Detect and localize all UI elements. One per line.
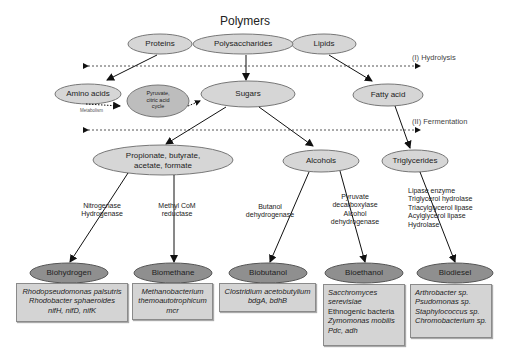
biohydrogen-enzymes: NitrogenaseHydrogenase: [72, 202, 132, 219]
bioethanol-organisms: SacchromycesserevisiaeEthnogenic bacteri…: [323, 284, 405, 346]
acids-label: Propionate, butyrate, acetate, formate: [93, 151, 233, 170]
hydrolysis-label: (I) Hydrolysis: [412, 53, 456, 62]
metabolism-label: Metabolism: [80, 108, 103, 113]
organism-line: nifH, nifD, nifK: [21, 306, 123, 315]
lipids-label: Lipids: [292, 39, 356, 49]
organism-line: mcr: [137, 306, 208, 315]
amino-acids-label: Amino acids: [55, 89, 121, 99]
biomethane-organisms: Methanobacteriumthemoautotrophicummcr: [132, 283, 213, 320]
organism-line: Methanobacterium: [137, 287, 208, 296]
biomethane-enzymes: Methyl CoMreductase: [150, 202, 204, 219]
organism-line: Clostridium acetobutylium: [224, 287, 311, 296]
organism-line: Rhodopseudomonas palsutris: [21, 287, 123, 296]
diagram-title: Polymers: [205, 14, 285, 28]
fatty-acid-label: Fatty acid: [353, 90, 423, 100]
organism-line: themoautotrophicum: [137, 296, 208, 305]
biohydrogen-organisms: Rhodopseudomonas palsutrisRhodobacter sp…: [16, 283, 128, 322]
biodiesel-organisms: Arthrobacter sp.Psudomonas sp.Staphyloco…: [410, 284, 492, 338]
sugars-label: Sugars: [201, 89, 295, 99]
organism-line: bdgA, bdhB: [224, 296, 311, 305]
product-bioethanol: Bioethanol: [325, 268, 403, 278]
organism-line: Pdc, adh: [328, 326, 400, 335]
organism-line: Zymomonas mobilis: [328, 316, 400, 325]
organism-line: Psudomonas sp.: [415, 297, 487, 306]
bioethanol-enzymes: Pyruvatedecarboxylase Alcoholdehydrogena…: [325, 193, 385, 227]
alcohols-label: Alcohols: [283, 156, 359, 166]
pyruvate-label: Pyruvate, citric acid cycle: [128, 90, 188, 110]
fermentation-label: (II) Fermentation: [412, 117, 467, 126]
biobutanol-enzymes: Butanoldehydrogenase: [240, 203, 300, 220]
product-biodiesel: Biodiesel: [417, 268, 493, 278]
organism-line: Staphylococcus sp.: [415, 307, 487, 316]
organism-line: Rhodobacter sphaeroides: [21, 296, 123, 305]
product-biomethane: Biomethane: [134, 268, 212, 278]
organism-line: Sacchromyces: [328, 288, 400, 297]
proteins-label: Proteins: [128, 39, 192, 49]
polysaccharides-label: Polysaccharides: [193, 39, 293, 49]
organism-line: Chromobacterium sp.: [415, 316, 487, 325]
organism-line: Arthrobacter sp.: [415, 288, 487, 297]
biodiesel-enzymes: Lipase enzymeTriglycerol hydrolase Triac…: [408, 187, 473, 229]
organism-line: serevisiae: [328, 297, 400, 306]
organism-line: Ethnogenic bacteria: [328, 307, 400, 316]
triglycerides-label: Triglycerides: [382, 156, 448, 166]
biobutanol-organisms: Clostridium acetobutyliumbdgA, bdhB: [219, 283, 316, 312]
product-biohydrogen: Biohydrogen: [30, 268, 108, 278]
product-biobutanol: Biobutanol: [229, 268, 307, 278]
